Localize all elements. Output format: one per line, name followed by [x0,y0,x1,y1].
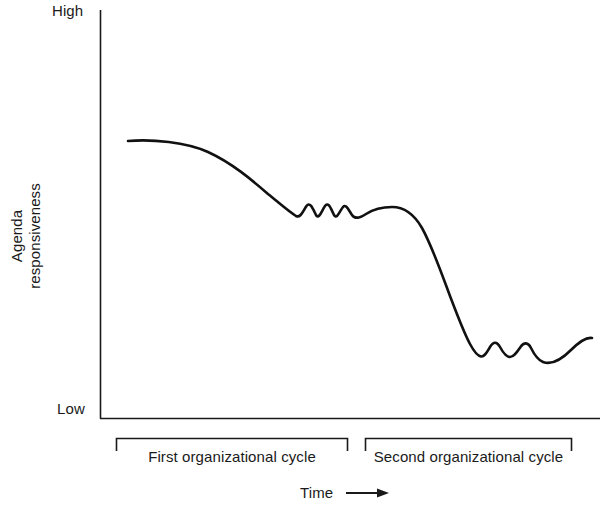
arrow-right-icon [346,487,390,499]
x-axis-title: Time [300,484,333,501]
y-axis-title: Agenda responsiveness [8,166,44,306]
data-line-series-agenda-responsiveness [128,140,592,362]
chart-figure: High Low Agenda responsiveness First org… [0,0,613,509]
y-axis-high-label: High [52,2,83,19]
x-axis-title-group: Time [300,484,390,501]
chart-canvas [0,0,613,509]
y-axis-low-label: Low [57,400,85,417]
first-cycle-label: First organizational cycle [116,447,348,466]
second-cycle-label: Second organizational cycle [365,447,572,466]
